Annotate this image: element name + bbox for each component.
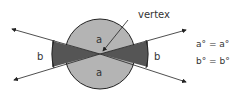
vertex-label: vertex (138, 9, 170, 20)
equation-a: a° = a° (196, 39, 229, 49)
equation-b: b° = b° (196, 56, 230, 66)
vertical-angles-diagram: vertex a a b b a° = a° b° = b° (0, 0, 240, 97)
angle-a-bottom-label: a (96, 67, 102, 78)
angle-a-top-label: a (96, 34, 102, 45)
angle-b-left-label: b (37, 51, 43, 62)
angle-b-right-label: b (154, 51, 160, 62)
